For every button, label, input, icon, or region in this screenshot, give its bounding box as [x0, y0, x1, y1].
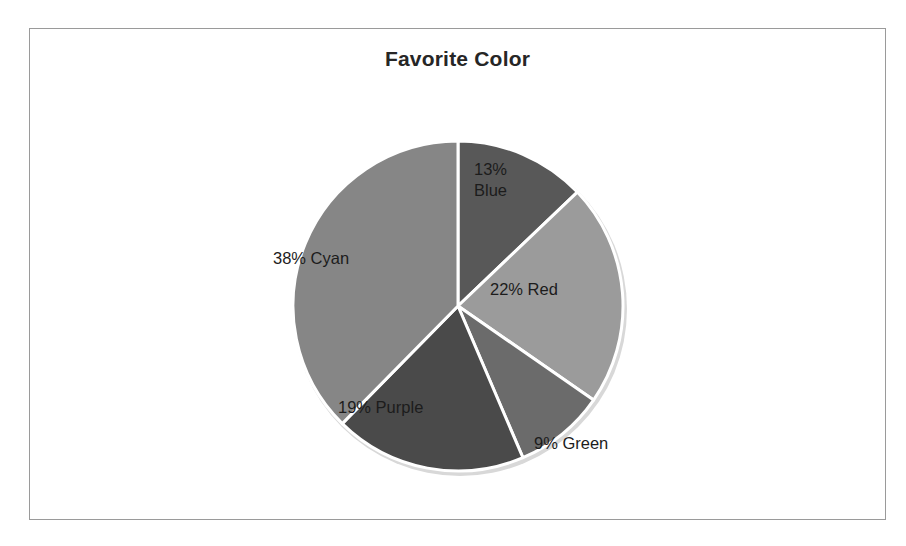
chart-frame: Favorite Color 13% Blue22% Red9% Green19…: [29, 28, 886, 520]
pie-svg: [30, 29, 887, 521]
pie-label-purple: 19% Purple: [338, 397, 423, 418]
pie-label-cyan: 38% Cyan: [273, 248, 349, 269]
pie-chart: 13% Blue22% Red9% Green19% Purple38% Cya…: [30, 29, 887, 521]
pie-label-green: 9% Green: [534, 433, 608, 454]
pie-label-red: 22% Red: [490, 279, 558, 300]
pie-label-blue: 13% Blue: [474, 159, 507, 201]
